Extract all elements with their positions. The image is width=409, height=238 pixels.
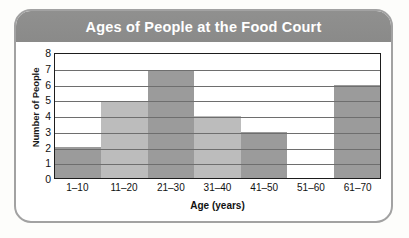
y-axis-tick: 8 — [38, 48, 51, 59]
bar — [148, 70, 194, 179]
y-axis-tick: 3 — [38, 127, 51, 138]
x-axis-tick: 41–50 — [241, 182, 288, 193]
chart-area: Number of People 876543210 1–1011–2021–3… — [16, 42, 393, 223]
x-axis-tick: 11–20 — [101, 182, 148, 193]
chart-card: Ages of People at the Food Court Number … — [14, 9, 393, 223]
y-axis-tick: 5 — [38, 95, 51, 106]
bar-column — [194, 54, 240, 178]
bar-column — [241, 54, 287, 178]
y-axis-tick: 7 — [38, 64, 51, 75]
y-axis-tick: 4 — [38, 111, 51, 122]
plot-area — [54, 53, 381, 179]
bar-column — [334, 54, 380, 178]
bar-column — [287, 54, 333, 178]
y-axis-tick: 6 — [38, 79, 51, 90]
x-axis-tick: 1–10 — [54, 182, 101, 193]
x-axis-tick: 51–60 — [288, 182, 335, 193]
chart-header: Ages of People at the Food Court — [16, 11, 391, 42]
y-axis-tick: 2 — [38, 142, 51, 153]
x-axis-label: Age (years) — [54, 200, 381, 211]
x-axis-tick: 31–40 — [194, 182, 241, 193]
bar-column — [148, 54, 194, 178]
bar — [334, 85, 380, 178]
bar-series — [55, 54, 380, 178]
bar — [101, 101, 147, 179]
page-title: Ages of People at the Food Court — [86, 19, 322, 35]
bar — [241, 132, 287, 179]
bar-column — [55, 54, 101, 178]
y-axis-tick-labels: 876543210 — [38, 53, 51, 179]
bar-column — [101, 54, 147, 178]
bar — [55, 147, 101, 178]
y-axis-tick: 0 — [38, 174, 51, 185]
bar — [194, 116, 240, 178]
y-axis-tick: 1 — [38, 158, 51, 169]
x-axis-tick: 21–30 — [147, 182, 194, 193]
x-axis-tick-labels: 1–1011–2021–3031–4041–5051–6061–70 — [54, 182, 381, 193]
x-axis-tick: 61–70 — [334, 182, 381, 193]
